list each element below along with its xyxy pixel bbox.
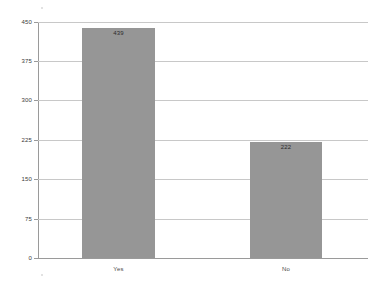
bar-no[interactable] (250, 142, 322, 258)
y-tick-label-75: 75 (2, 216, 32, 222)
category-label-yes: Yes (82, 266, 155, 272)
bar-value-yes: 439 (82, 30, 155, 36)
bar-value-no: 222 (250, 144, 322, 150)
y-tick-label-0: 0 (2, 255, 32, 261)
y-tick-label-375: 375 (2, 58, 32, 64)
gridline-baseline-0 (38, 258, 368, 259)
bar-yes[interactable] (82, 28, 155, 258)
y-axis-tick-labels: 450 375 300 225 150 75 0 (0, 0, 32, 287)
plot-area (38, 22, 368, 258)
raster-speck-top (41, 7, 43, 9)
category-label-no: No (250, 266, 322, 272)
raster-speck-bottom (41, 274, 43, 276)
y-tick-label-225: 225 (2, 137, 32, 143)
bar-chart: 450 375 300 225 150 75 0 439 222 Yes No (0, 0, 384, 287)
y-tick-label-450: 450 (2, 19, 32, 25)
y-tick-label-300: 300 (2, 97, 32, 103)
y-tick-label-150: 150 (2, 176, 32, 182)
gridline-450 (38, 22, 368, 23)
